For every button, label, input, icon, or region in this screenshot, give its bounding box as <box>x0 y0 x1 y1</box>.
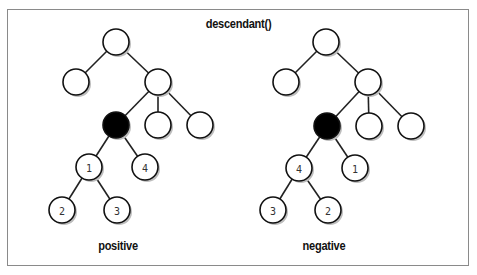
tree-node <box>398 113 424 139</box>
tree-canvas: 14234132 <box>0 0 477 275</box>
node-label: 4 <box>296 164 302 175</box>
tree-node <box>313 29 339 55</box>
tree-node <box>356 113 382 139</box>
node-label: 4 <box>142 163 148 174</box>
node-label: 3 <box>270 206 276 217</box>
node-label: 1 <box>352 164 358 175</box>
tree-positive: 1423 <box>49 29 215 225</box>
caption-negative: negative <box>282 238 367 253</box>
tree-negative: 4132 <box>260 29 426 225</box>
node-label: 3 <box>114 206 120 217</box>
caption-positive: positive <box>76 238 161 253</box>
tree-node <box>103 29 129 55</box>
node-label: 2 <box>325 206 331 217</box>
tree-node <box>145 69 171 95</box>
tree-node <box>187 112 213 138</box>
context-node <box>314 113 340 139</box>
tree-node <box>273 69 299 95</box>
context-node <box>103 112 129 138</box>
tree-node <box>63 69 89 95</box>
node-label: 1 <box>86 163 92 174</box>
node-label: 2 <box>59 206 65 217</box>
tree-node <box>355 69 381 95</box>
tree-node <box>145 112 171 138</box>
